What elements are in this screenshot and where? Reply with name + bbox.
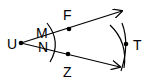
arc-upper-T (110, 25, 125, 68)
point-Z (66, 52, 71, 57)
angle-bisector-diagram: U F Z M N T (0, 0, 146, 80)
label-N: N (38, 39, 48, 55)
label-U: U (7, 36, 17, 52)
label-T: T (133, 37, 142, 53)
point-F (67, 27, 72, 32)
label-Z: Z (63, 64, 72, 80)
label-F: F (63, 7, 72, 23)
point-T (124, 42, 129, 47)
point-U (19, 41, 24, 46)
arc-near-vertex (47, 23, 55, 62)
